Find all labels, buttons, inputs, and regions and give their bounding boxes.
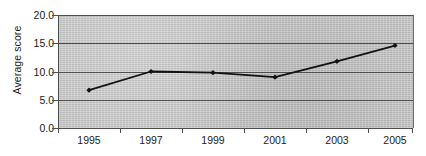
x-tick-label: 1997: [139, 134, 162, 146]
data-point-marker: [392, 43, 397, 48]
x-tick-mark: [306, 128, 307, 133]
data-point-marker: [272, 75, 277, 80]
x-tick-label: 2001: [263, 134, 286, 146]
x-tick-mark: [244, 128, 245, 133]
data-point-marker: [148, 69, 153, 74]
series-polyline: [89, 46, 395, 91]
data-point-marker: [86, 88, 91, 93]
data-series-line: [58, 15, 412, 128]
x-tick-label: 1995: [77, 134, 100, 146]
x-tick-mark: [412, 128, 413, 133]
x-tick-label: 2005: [383, 134, 406, 146]
y-tick-label: 0.0: [20, 122, 54, 134]
x-tick-label: 2003: [325, 134, 348, 146]
y-tick-label: 15.0: [20, 37, 54, 49]
y-tick-label: 20.0: [20, 9, 54, 21]
y-tick-label: 10.0: [20, 66, 54, 78]
data-point-marker: [334, 59, 339, 64]
data-point-marker: [210, 70, 215, 75]
x-tick-mark: [58, 128, 59, 133]
y-tick-label: 5.0: [20, 94, 54, 106]
x-tick-label: 1999: [201, 134, 224, 146]
y-axis-tick-labels: 0.0 5.0 10.0 15.0 20.0: [18, 0, 54, 156]
x-tick-mark: [182, 128, 183, 133]
chart-figure: Average score 0.0 5.0 10.0 15.0 20.0 199…: [0, 0, 426, 156]
x-axis-line: [58, 128, 413, 129]
x-tick-mark: [120, 128, 121, 133]
x-tick-mark: [368, 128, 369, 133]
series-markers: [86, 43, 397, 93]
